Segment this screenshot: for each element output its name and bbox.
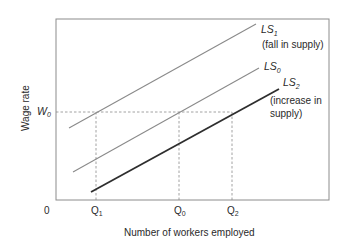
q1-label: Q1 <box>91 205 103 217</box>
ls0-label: LS0 <box>264 60 281 74</box>
ls0-curve <box>73 68 259 172</box>
y-axis-title: Wage rate <box>20 85 31 131</box>
ls2-curve <box>91 89 279 192</box>
x-axis-title: Number of workers employed <box>124 227 255 238</box>
guide-lines <box>56 112 232 200</box>
ls1-note: (fall in supply) <box>262 39 324 50</box>
ls2-note-line2: supply) <box>270 108 302 119</box>
ls1-label: LS1 <box>261 23 278 37</box>
origin-label: 0 <box>44 205 50 216</box>
ls2-label: LS2 <box>283 76 300 90</box>
labour-supply-diagram: LS1 (fall in supply) LS0 LS2 (increase i… <box>0 0 345 251</box>
ls2-note-line1: (increase in <box>270 95 322 106</box>
q0-label: Q0 <box>174 205 186 217</box>
q2-label: Q2 <box>227 205 239 217</box>
w0-label: W0 <box>37 105 51 118</box>
